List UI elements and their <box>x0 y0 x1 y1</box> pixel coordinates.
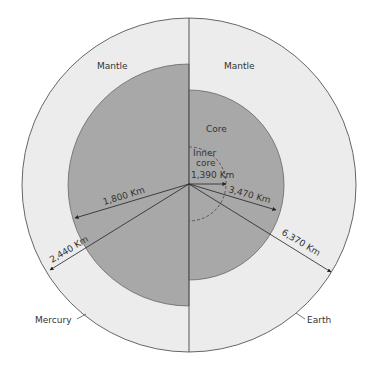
earth-leader <box>296 313 305 319</box>
mercury-leader <box>77 314 86 319</box>
earth-core-label: Core <box>206 124 227 134</box>
earth-label: Earth <box>307 315 331 325</box>
planet-interior-diagram: Mantle Mantle Core Inner core 1,390 Km 3… <box>0 0 373 372</box>
mercury-label: Mercury <box>35 315 72 325</box>
inner-core-radius-label: 1,390 Km <box>191 170 234 180</box>
inner-core-label-1: Inner <box>193 148 217 158</box>
mercury-mantle-label: Mantle <box>97 61 128 71</box>
earth-mantle-label: Mantle <box>224 61 255 71</box>
inner-core-label-2: core <box>196 158 216 168</box>
